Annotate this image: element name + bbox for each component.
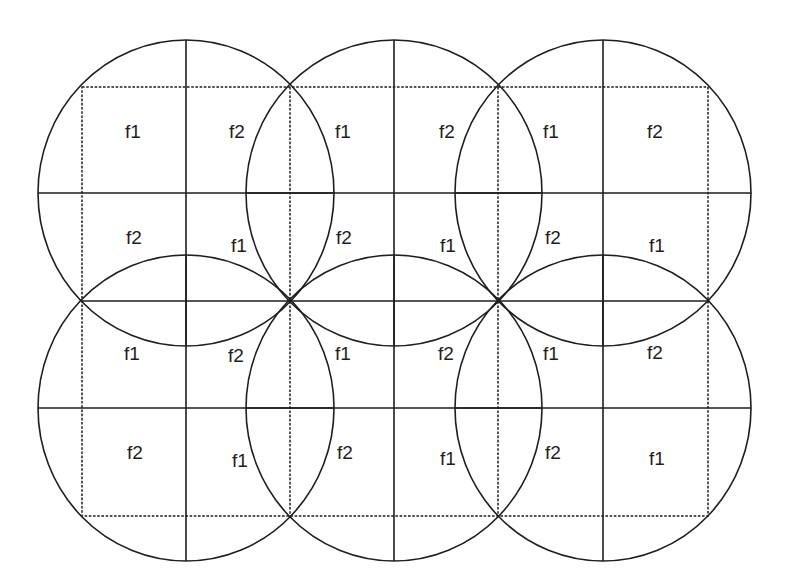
frequency-label: f1 [649,448,665,469]
frequency-reuse-diagram: f1f2f1f2f1f2f2f1f2f1f2f1f1f2f1f2f1f2f2f1… [0,0,791,586]
frequency-label: f1 [649,235,665,256]
frequency-label: f2 [438,343,454,364]
frequency-label: f2 [647,121,663,142]
frequency-label: f2 [439,121,455,142]
frequency-label: f2 [337,442,353,463]
frequency-label: f1 [440,448,456,469]
frequency-label: f2 [545,442,561,463]
frequency-label: f1 [335,121,351,142]
frequency-label: f2 [126,227,142,248]
frequency-label: f2 [647,342,663,363]
frequency-label: f1 [335,343,351,364]
frequency-label: f2 [545,227,561,248]
frequency-label: f1 [543,121,559,142]
frequency-label: f1 [543,343,559,364]
cell-axis-lines [38,40,751,561]
frequency-label: f1 [231,235,247,256]
frequency-label: f2 [336,227,352,248]
frequency-label: f2 [229,121,245,142]
frequency-label: f1 [440,235,456,256]
frequency-label: f2 [127,442,143,463]
frequency-label: f1 [125,121,141,142]
frequency-label: f2 [228,345,244,366]
frequency-label: f1 [124,343,140,364]
frequency-label: f1 [232,450,248,471]
